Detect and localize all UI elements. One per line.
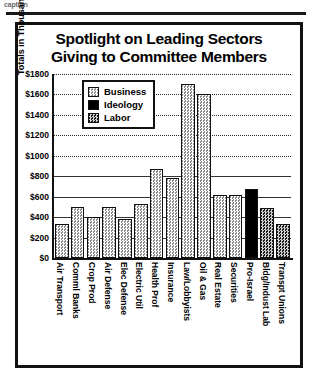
bar (55, 224, 69, 258)
chart-title: Spotlight on Leading Sectors Giving to C… (18, 30, 300, 66)
x-axis-tick-label: Pro-Israel (245, 262, 255, 301)
bar (118, 219, 132, 258)
legend-swatch (88, 100, 99, 110)
bar (150, 169, 164, 258)
x-axis-tick-label: Bldg/Indust Lab (261, 262, 271, 326)
gridline (54, 176, 291, 177)
x-axis-line (52, 258, 293, 260)
x-axis-tick-label: Transpt Unions (277, 262, 287, 324)
x-axis-tick-label: Crop Prod (87, 262, 97, 304)
gridline (54, 74, 291, 75)
bar (229, 195, 243, 258)
y-axis-tick-label: $1600 (25, 89, 49, 99)
legend-item: Ideology (88, 98, 146, 111)
bar (102, 207, 116, 258)
x-axis-tick-label: Comml Banks (71, 262, 81, 319)
y-axis-tick-label: $1000 (25, 151, 49, 161)
bar (197, 94, 211, 258)
legend-item: Business (88, 85, 146, 98)
y-axis-tick-label: $1200 (25, 130, 49, 140)
legend-swatch (88, 87, 99, 97)
y-axis-tick-label: $1800 (25, 69, 49, 79)
bar (71, 207, 85, 258)
bar (276, 224, 290, 258)
bar (181, 84, 195, 258)
x-axis-tick-label: Electric Util (134, 262, 144, 309)
legend-label: Labor (104, 112, 130, 123)
legend-label: Business (104, 86, 146, 97)
bar (87, 217, 101, 258)
x-axis-tick-label: Insurance (166, 262, 176, 302)
bar (166, 178, 180, 258)
bar (213, 195, 227, 258)
legend-label: Ideology (104, 99, 143, 110)
chart-title-line-1: Spotlight on Leading Sectors (18, 30, 300, 48)
x-axis-tick-label: Securities (229, 262, 239, 303)
scan-horizontal-rule (6, 12, 306, 15)
y-axis-tick-label: $800 (30, 171, 49, 181)
chart-title-line-2: Giving to Committee Members (18, 48, 300, 66)
legend-swatch (88, 113, 99, 123)
x-axis-tick-label: Air Defense (103, 262, 113, 309)
chart-frame: Spotlight on Leading Sectors Giving to C… (15, 22, 303, 368)
y-axis-tick-label: $400 (30, 212, 49, 222)
x-axis-tick-label: Health Prof (150, 262, 160, 307)
scan-caption-fragment: caption (4, 0, 74, 9)
bar (260, 208, 274, 258)
y-axis-tick-label: $0 (40, 253, 49, 263)
bar (134, 204, 148, 258)
x-axis-tick-label: Oil & Gas (198, 262, 208, 300)
y-axis-tick-label: $200 (30, 233, 49, 243)
y-axis-line (52, 74, 54, 260)
x-axis-tick-label: Law/Lobbyists (182, 262, 192, 321)
y-axis-tick-label: $600 (30, 192, 49, 202)
chart-legend: BusinessIdeologyLabor (82, 80, 155, 129)
x-axis-tick-label: Real Estate (213, 262, 223, 308)
bar (245, 189, 259, 259)
x-axis-tick-label: Air Transport (55, 262, 65, 315)
y-axis-label: Totals in Thousands of Dollars (16, 0, 26, 75)
legend-item: Labor (88, 111, 146, 124)
gridline (54, 156, 291, 157)
x-axis-tick-label: Elec Defense (119, 262, 129, 315)
gridline (54, 135, 291, 136)
y-axis-tick-label: $1400 (25, 110, 49, 120)
